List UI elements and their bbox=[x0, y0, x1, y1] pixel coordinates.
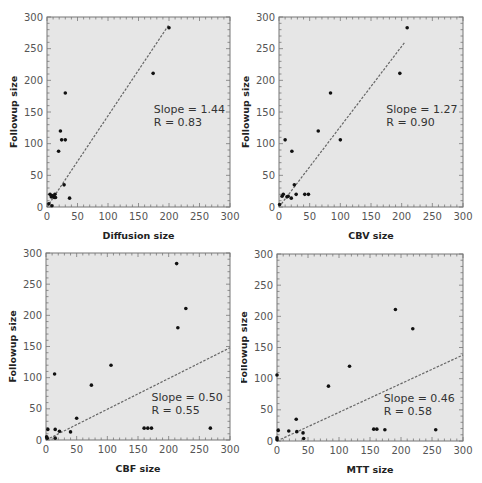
y-tick-label: 50 bbox=[30, 170, 43, 181]
data-point bbox=[54, 196, 58, 200]
y-tick-label: 100 bbox=[256, 138, 275, 149]
data-point bbox=[275, 373, 279, 377]
y-axis-title: Followup size bbox=[7, 310, 18, 382]
y-tick-label: 0 bbox=[36, 435, 42, 446]
slope-annotation: Slope = 1.27 bbox=[386, 103, 457, 116]
data-point bbox=[294, 417, 298, 421]
plot-area bbox=[277, 254, 463, 441]
scatter-panel-diffusion: 050100150200250300050100150200250300Diff… bbox=[0, 0, 241, 241]
x-tick-label: 200 bbox=[391, 445, 410, 456]
x-axis-title: CBF size bbox=[116, 463, 161, 474]
data-point bbox=[58, 429, 62, 433]
data-point bbox=[394, 308, 398, 312]
data-point bbox=[142, 426, 146, 430]
scatter-panel-cbv: 050100150200250300050100150200250300CBV … bbox=[241, 0, 482, 241]
data-point bbox=[64, 91, 68, 95]
scatter-plot-cbf: 050100150200250300050100150200250300CBF … bbox=[0, 243, 241, 483]
x-tick-label: 200 bbox=[159, 211, 178, 222]
data-point bbox=[293, 183, 297, 187]
data-point bbox=[146, 426, 150, 430]
data-point bbox=[90, 383, 94, 387]
x-axis-title: Diffusion size bbox=[103, 230, 175, 241]
x-tick-label: 0 bbox=[43, 444, 49, 455]
r-annotation: R = 0.55 bbox=[151, 404, 199, 417]
data-point bbox=[209, 426, 213, 430]
data-point bbox=[53, 436, 57, 440]
y-tick-label: 150 bbox=[23, 341, 42, 352]
y-tick-label: 50 bbox=[262, 170, 275, 181]
data-point bbox=[276, 429, 280, 433]
y-tick-label: 300 bbox=[256, 12, 275, 23]
x-tick-label: 250 bbox=[423, 211, 442, 222]
data-point bbox=[68, 196, 72, 200]
data-point bbox=[175, 262, 179, 266]
data-point bbox=[289, 196, 293, 200]
x-axis-title: CBV size bbox=[348, 230, 393, 241]
data-point bbox=[281, 193, 285, 197]
data-point bbox=[303, 193, 307, 197]
data-point bbox=[411, 327, 415, 331]
data-point bbox=[69, 430, 73, 434]
data-point bbox=[372, 427, 376, 431]
data-point bbox=[405, 26, 409, 30]
x-tick-label: 50 bbox=[71, 211, 84, 222]
scatter-panel-cbf: 050100150200250300050100150200250300CBF … bbox=[0, 243, 241, 483]
data-point bbox=[295, 430, 299, 434]
x-tick-label: 0 bbox=[44, 211, 50, 222]
x-tick-label: 50 bbox=[302, 445, 315, 456]
y-tick-label: 250 bbox=[23, 279, 42, 290]
data-point bbox=[283, 138, 287, 142]
data-point bbox=[75, 416, 79, 420]
data-point bbox=[46, 428, 50, 432]
y-axis-title: Followup size bbox=[241, 311, 249, 383]
x-tick-label: 150 bbox=[129, 211, 148, 222]
data-point bbox=[167, 26, 171, 30]
x-tick-label: 100 bbox=[329, 445, 348, 456]
y-tick-label: 200 bbox=[23, 310, 42, 321]
data-point bbox=[60, 138, 64, 142]
data-point bbox=[302, 437, 306, 441]
data-point bbox=[327, 384, 331, 388]
data-point bbox=[375, 427, 379, 431]
y-tick-label: 200 bbox=[24, 75, 43, 86]
data-point bbox=[301, 431, 305, 435]
y-tick-label: 200 bbox=[254, 311, 273, 322]
scatter-plot-mtt: 050100150200250300050100150200250300MTT … bbox=[241, 243, 482, 483]
x-tick-label: 200 bbox=[159, 444, 178, 455]
data-point bbox=[287, 429, 291, 433]
y-tick-label: 50 bbox=[260, 404, 273, 415]
r-annotation: R = 0.90 bbox=[386, 116, 434, 129]
data-point bbox=[316, 129, 320, 133]
y-tick-label: 100 bbox=[24, 138, 43, 149]
x-tick-label: 300 bbox=[220, 211, 239, 222]
data-point bbox=[275, 438, 279, 442]
slope-annotation: Slope = 1.44 bbox=[154, 103, 225, 116]
x-tick-label: 100 bbox=[98, 211, 117, 222]
data-point bbox=[59, 129, 63, 133]
data-point bbox=[53, 193, 57, 197]
data-point bbox=[62, 183, 66, 187]
x-tick-label: 100 bbox=[331, 211, 350, 222]
y-tick-label: 250 bbox=[24, 43, 43, 54]
y-tick-label: 250 bbox=[256, 43, 275, 54]
y-tick-label: 0 bbox=[269, 202, 275, 213]
x-tick-label: 0 bbox=[276, 211, 282, 222]
data-point bbox=[109, 363, 113, 367]
data-point bbox=[290, 149, 294, 153]
y-axis-title: Followup size bbox=[241, 76, 251, 148]
scatter-plot-diffusion: 050100150200250300050100150200250300Diff… bbox=[0, 0, 241, 241]
data-point bbox=[53, 372, 57, 376]
x-tick-label: 50 bbox=[70, 444, 83, 455]
r-annotation: R = 0.58 bbox=[384, 405, 432, 418]
y-tick-label: 200 bbox=[256, 75, 275, 86]
data-point bbox=[329, 91, 333, 95]
data-point bbox=[398, 72, 402, 76]
r-annotation: R = 0.83 bbox=[154, 116, 202, 129]
data-point bbox=[294, 193, 298, 197]
x-tick-label: 200 bbox=[392, 211, 411, 222]
y-tick-label: 100 bbox=[23, 372, 42, 383]
y-tick-label: 100 bbox=[254, 373, 273, 384]
data-point bbox=[53, 428, 57, 432]
data-point bbox=[57, 149, 61, 153]
x-tick-label: 300 bbox=[453, 211, 472, 222]
